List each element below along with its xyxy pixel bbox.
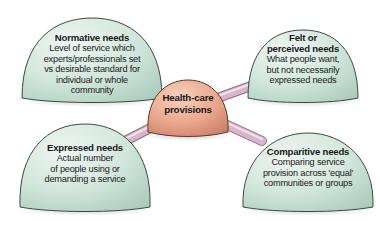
- node-felt: Felt or perceived needs What people want…: [250, 32, 356, 86]
- node-desc-line: provision across 'equal': [248, 168, 368, 179]
- node-title: Normative needs: [30, 32, 154, 43]
- node-title: Felt or: [250, 32, 356, 43]
- node-desc-line: but not necessarily: [250, 65, 356, 76]
- center-title: provisions: [152, 104, 224, 116]
- node-desc-line: vs desirable standard for: [30, 64, 154, 75]
- node-desc-line: demanding a service: [26, 174, 144, 185]
- node-comparative: Comparitive needs Comparing service prov…: [248, 146, 368, 189]
- node-title: Comparitive needs: [248, 146, 368, 157]
- node-desc-line: of people using or: [26, 164, 144, 175]
- node-desc-line: individual or whole: [30, 75, 154, 86]
- node-desc-line: communities or groups: [248, 178, 368, 189]
- node-desc-line: Comparing service: [248, 157, 368, 168]
- node-desc-line: expressed needs: [250, 75, 356, 86]
- node-desc-line: Actual number: [26, 153, 144, 164]
- center-title: Health-care: [152, 92, 224, 104]
- node-expressed: Expressed needs Actual number of people …: [26, 142, 144, 185]
- node-center: Health-care provisions: [152, 92, 224, 115]
- node-desc-line: What people want,: [250, 54, 356, 65]
- node-title: Expressed needs: [26, 142, 144, 153]
- node-desc-line: experts/professionals set: [30, 54, 154, 65]
- node-normative: Normative needs Level of service which e…: [30, 32, 154, 96]
- node-desc-line: Level of service which: [30, 43, 154, 54]
- node-desc-line: community: [30, 85, 154, 96]
- node-title: perceived needs: [250, 43, 356, 54]
